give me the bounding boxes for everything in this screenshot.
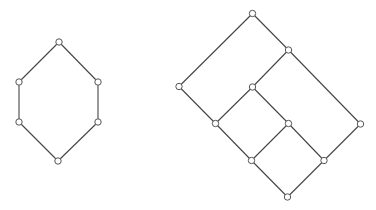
lattice-diagrams-canvas: [0, 0, 376, 210]
node-C: [176, 83, 182, 89]
node-ul: [16, 79, 22, 85]
node-bottom: [55, 158, 61, 164]
grid-lattice-diagram: [176, 10, 364, 200]
edge-F-I: [289, 124, 325, 161]
edge-H-J: [252, 161, 288, 198]
node-A: [249, 10, 255, 16]
edge-D-F: [253, 87, 289, 124]
node-B: [285, 47, 291, 53]
edge-F-H: [252, 124, 289, 161]
edge-C-E: [179, 87, 216, 124]
node-I: [321, 157, 327, 163]
edge-B-D: [253, 50, 289, 87]
node-ll: [16, 119, 22, 125]
edge-I-J: [288, 161, 325, 198]
node-E: [212, 120, 218, 126]
node-G: [357, 121, 363, 127]
node-D: [249, 84, 255, 90]
edge-A-C: [179, 14, 253, 87]
edge-top-ul: [19, 42, 59, 82]
node-J: [284, 194, 290, 200]
hexagon-lattice-diagram: [16, 39, 101, 164]
edge-D-E: [216, 87, 253, 124]
edge-B-G: [289, 50, 361, 124]
edge-E-H: [216, 124, 252, 161]
edge-top-ur: [59, 42, 98, 82]
edge-G-I: [324, 124, 361, 161]
edge-ll-bottom: [19, 122, 58, 161]
node-top: [56, 39, 62, 45]
edge-lr-bottom: [58, 122, 98, 161]
node-lr: [95, 119, 101, 125]
node-F: [285, 120, 291, 126]
node-ur: [95, 79, 101, 85]
node-H: [248, 157, 254, 163]
edge-A-B: [253, 14, 289, 51]
